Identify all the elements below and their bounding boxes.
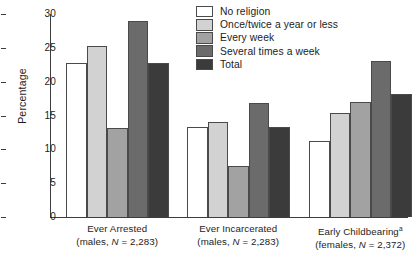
bar-group	[66, 14, 169, 217]
y-axis-tick-label: 30	[6, 8, 56, 20]
y-axis-tick-mark	[1, 149, 6, 150]
legend-swatch	[196, 32, 213, 44]
bar[interactable]	[107, 128, 128, 217]
legend-swatch	[196, 45, 213, 57]
bar-chart: Percentage 051015202530 Ever Arrested(ma…	[0, 0, 415, 259]
legend-item[interactable]: Several times a week	[196, 45, 338, 58]
y-axis-tick-label: 10	[6, 143, 56, 155]
legend-item-label: Total	[220, 59, 242, 70]
legend: No religionOnce/twice a year or lessEver…	[196, 5, 338, 71]
bar[interactable]	[87, 46, 108, 217]
legend-swatch	[196, 6, 213, 18]
x-label-footnote-marker: a	[399, 225, 403, 232]
bar[interactable]	[187, 127, 208, 217]
bar[interactable]	[309, 141, 330, 217]
bar[interactable]	[228, 166, 249, 217]
legend-swatch	[196, 19, 213, 31]
bar[interactable]	[128, 21, 149, 217]
legend-item[interactable]: No religion	[196, 5, 338, 18]
bar[interactable]	[330, 113, 351, 217]
bar[interactable]	[350, 102, 371, 217]
x-axis-group-label: Early Childbearinga(females, N = 2,372)	[285, 222, 415, 251]
bar[interactable]	[66, 63, 87, 217]
y-axis-tick-label: 15	[6, 110, 56, 122]
x-label-line-2: (females, N = 2,372)	[285, 238, 415, 251]
legend-item-label: Several times a week	[220, 46, 320, 57]
y-axis-tick-label: 20	[6, 76, 56, 88]
y-axis-tick-label: 5	[6, 177, 56, 189]
bar[interactable]	[249, 103, 270, 217]
legend-item-label: Once/twice a year or less	[220, 19, 338, 30]
y-axis-title: Percentage	[16, 41, 28, 151]
x-axis-line	[50, 217, 408, 218]
legend-item[interactable]: Once/twice a year or less	[196, 18, 338, 31]
y-axis-tick-mark	[1, 217, 6, 218]
legend-swatch	[196, 59, 213, 71]
y-axis-tick-mark	[1, 183, 6, 184]
y-axis-tick-mark	[1, 14, 6, 15]
x-label-line-1: Early Childbearinga	[285, 222, 415, 238]
y-axis-tick-mark	[1, 48, 6, 49]
bar[interactable]	[269, 127, 290, 217]
y-axis-tick-mark	[1, 82, 6, 83]
bar[interactable]	[371, 61, 392, 217]
bar[interactable]	[391, 94, 412, 217]
legend-item[interactable]: Every week	[196, 31, 338, 44]
y-axis-tick-label: 25	[6, 42, 56, 54]
legend-item-label: Every week	[220, 32, 274, 43]
y-axis-tick-mark	[1, 116, 6, 117]
bar[interactable]	[208, 122, 229, 217]
bar[interactable]	[148, 63, 169, 217]
legend-item-label: No religion	[220, 6, 270, 17]
legend-item[interactable]: Total	[196, 58, 338, 71]
